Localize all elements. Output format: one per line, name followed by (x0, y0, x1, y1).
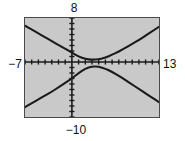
window-ymax-label: 8 (0, 2, 148, 14)
graph-figure: 8 −7 13 −10 (0, 0, 185, 141)
plot-area (24, 17, 160, 118)
curves-group (25, 26, 159, 107)
curve-series-0 (25, 26, 159, 60)
window-xmax-label: 13 (163, 58, 185, 70)
window-xmin-label: −7 (2, 58, 22, 70)
curve-series-1 (25, 67, 159, 108)
window-ymin-label: −10 (0, 124, 152, 136)
plot-canvas (25, 18, 159, 117)
